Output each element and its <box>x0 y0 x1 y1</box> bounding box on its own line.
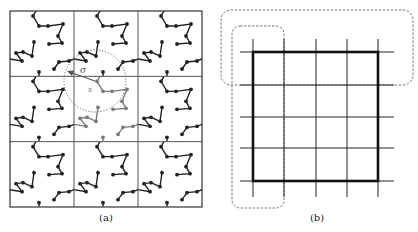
arrowhead-icon <box>67 71 74 77</box>
panel-b-cell-grid <box>221 10 413 208</box>
s-label: s <box>88 85 92 94</box>
polymer-chains <box>10 11 202 207</box>
image-cell-chains <box>10 11 74 76</box>
sigma-label: σ <box>80 65 87 75</box>
periodic-grid <box>10 11 202 207</box>
image-cell-chains <box>10 142 74 207</box>
figure-canvas: σs <box>0 0 418 232</box>
row-region <box>221 10 413 85</box>
image-cell-chains <box>138 76 202 141</box>
image-cell-chains <box>10 76 74 141</box>
central-cell-chains <box>74 76 138 141</box>
image-cell-chains <box>74 142 138 207</box>
caption-b: (b) <box>310 212 324 223</box>
outer-box <box>10 11 202 207</box>
image-cell-chains <box>138 11 202 76</box>
caption-a: (a) <box>99 212 113 223</box>
image-cell-chains <box>138 142 202 207</box>
panel-a-periodic-polymer-box: σs <box>10 11 202 207</box>
